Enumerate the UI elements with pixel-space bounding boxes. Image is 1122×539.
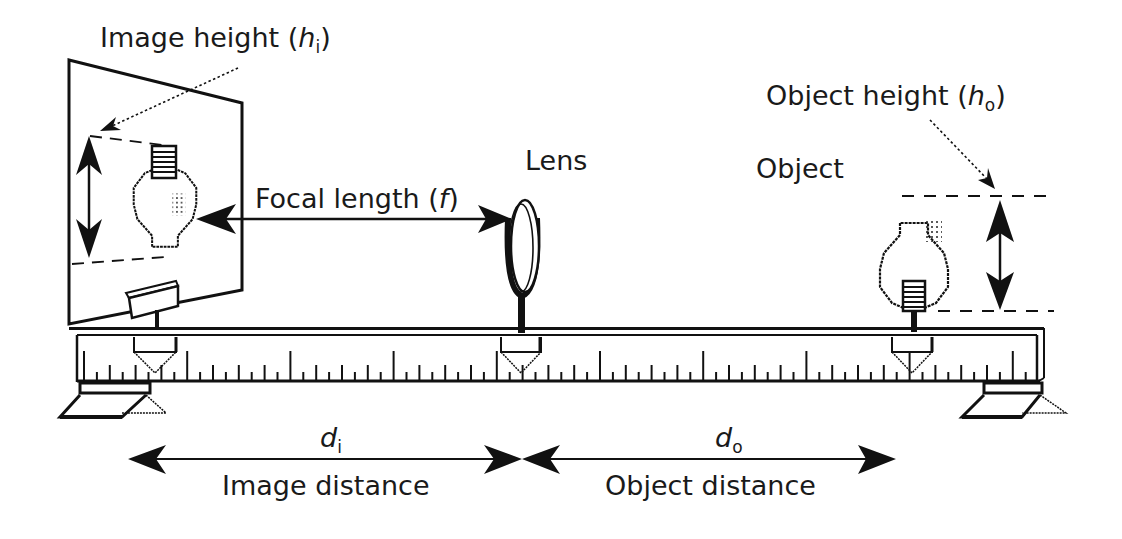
image-height-label: Image height (hi) [100, 22, 331, 57]
lens [508, 200, 539, 333]
object-bulb [880, 218, 948, 332]
object-label: Object [756, 153, 844, 184]
object-height-label: Object height (ho) [766, 80, 1006, 115]
image-distance-symbol: di [320, 422, 342, 457]
optical-bench [60, 327, 1066, 417]
screen-carrier [134, 337, 176, 373]
lens-carrier [501, 337, 541, 373]
left-stand [60, 383, 166, 417]
lens-label: Lens [525, 145, 587, 176]
image-distance-label: Image distance [222, 470, 430, 501]
optics-diagram: Image height (hi) Object height (ho) Foc… [0, 0, 1122, 539]
screen [69, 60, 242, 327]
right-stand [962, 383, 1066, 417]
focal-length-label: Focal length (f) [255, 183, 459, 214]
object-carrier [892, 337, 932, 373]
ruler-ticks [84, 351, 1026, 381]
object-distance-symbol: do [715, 422, 743, 457]
image-bulb-base [152, 146, 176, 178]
object-height-arrow [986, 200, 1014, 310]
object-distance-label: Object distance [605, 470, 816, 501]
object-height-leader [930, 120, 995, 189]
